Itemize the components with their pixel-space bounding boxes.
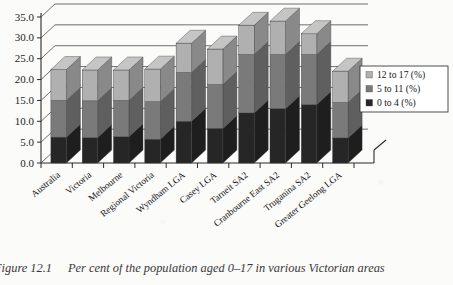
y-tick-label: 0.0 xyxy=(20,157,34,169)
y-tick-label: 15.0 xyxy=(15,94,35,106)
bar-segment-face xyxy=(145,69,161,102)
bar-segment-face xyxy=(51,137,67,163)
y-tick-label: 20.0 xyxy=(15,73,35,85)
bar-segment-face xyxy=(82,101,98,138)
caption-number: Figure 12.1 xyxy=(0,264,52,275)
bar-segment-face xyxy=(82,70,98,101)
bar-segment-face xyxy=(176,72,192,121)
bar-column xyxy=(176,30,206,163)
bar-column xyxy=(51,57,81,163)
legend-label: 0 to 4 (%) xyxy=(377,97,416,109)
legend-swatch xyxy=(366,72,373,79)
bar-segment-face xyxy=(176,43,192,72)
bar-segment-face xyxy=(114,100,130,136)
bars-layer xyxy=(51,8,362,163)
bar-segment-face xyxy=(207,49,223,84)
chart-legend: 12 to 17 (%)5 to 11 (%)0 to 4 (%) xyxy=(360,66,448,112)
bar-segment-face xyxy=(333,103,349,138)
bar-segment-face xyxy=(145,139,161,163)
bar-segment-face xyxy=(270,55,286,109)
bar-column xyxy=(207,36,237,163)
bar-segment-face xyxy=(270,21,286,54)
grid-depth-connector xyxy=(41,25,55,38)
bar-segment-face xyxy=(207,85,223,129)
bar-segment-face xyxy=(333,71,349,102)
grid-depth-connector xyxy=(41,46,55,59)
bar-segment-face xyxy=(239,113,255,163)
bar-segment-face xyxy=(207,128,223,163)
bar-segment-face xyxy=(82,138,98,163)
bar-column xyxy=(270,8,300,163)
y-axis-tick-labels: 0.05.010.015.020.025.030.035.0 xyxy=(15,11,35,169)
bar-segment-face xyxy=(51,100,67,137)
y-tick-label: 35.0 xyxy=(15,11,35,23)
legend-label: 12 to 17 (%) xyxy=(377,69,425,81)
stacked-column-chart: 0.05.010.015.020.025.030.035.0 Australia… xyxy=(0,0,453,250)
grid-depth-connector xyxy=(41,4,55,17)
y-tick-label: 10.0 xyxy=(15,115,35,127)
bar-segment-face xyxy=(239,25,255,54)
bar-segment-face xyxy=(333,138,349,163)
bar-segment-face xyxy=(114,137,130,163)
legend-label: 5 to 11 (%) xyxy=(377,83,420,95)
bar-segment-face xyxy=(270,109,286,163)
y-tick-label: 30.0 xyxy=(15,31,35,43)
bar-column xyxy=(145,56,175,163)
bar-segment-face xyxy=(51,70,67,101)
legend-swatch xyxy=(366,86,373,93)
x-axis-depth-edge xyxy=(374,140,386,150)
x-category-label: Regional Victoria xyxy=(99,170,156,219)
x-axis-category-labels: AustraliaVictoriaMelbourneRegional Victo… xyxy=(29,170,344,230)
figure-12-1: 0.05.010.015.020.025.030.035.0 Australia… xyxy=(0,0,453,285)
chart-area: 0.05.010.015.020.025.030.035.0 Australia… xyxy=(0,0,453,250)
figure-caption: Figure 12.1Per cent of the population ag… xyxy=(0,264,453,285)
bar-column xyxy=(333,58,363,163)
bar-segment-face xyxy=(114,70,130,100)
bar-column xyxy=(239,12,269,163)
bar-segment-face xyxy=(301,34,317,55)
bar-column xyxy=(301,21,331,163)
bar-column xyxy=(114,57,144,163)
bar-segment-face xyxy=(145,102,161,140)
y-tick-label: 5.0 xyxy=(20,136,34,148)
bar-segment-face xyxy=(239,55,255,113)
y-tick-label: 25.0 xyxy=(15,52,35,64)
bar-segment-face xyxy=(301,105,317,163)
bar-segment-face xyxy=(301,55,317,105)
bar-column xyxy=(82,57,112,163)
caption-text: Per cent of the population aged 0–17 in … xyxy=(68,264,385,275)
bar-segment-face xyxy=(176,121,192,163)
legend-swatch xyxy=(366,100,373,107)
x-category-label: Australia xyxy=(29,170,62,199)
